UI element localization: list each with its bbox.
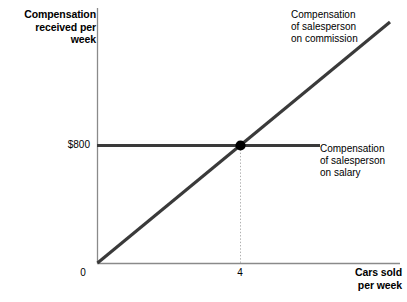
salary-series-annotation: Compensation of salesperson on salary (320, 143, 407, 179)
x-axis-title: Cars sold per week (292, 266, 402, 291)
y-axis-title: Compensation received per week (4, 8, 96, 46)
intersection-point-marker (235, 140, 245, 150)
y-axis-tick-label-800: $800 (52, 139, 90, 151)
x-axis-tick-label-4: 4 (233, 267, 247, 279)
commission-series-annotation: Compensation of salesperson on commissio… (291, 9, 407, 45)
x-axis-tick-label-0: 0 (76, 267, 90, 279)
compensation-chart: Compensation received per week Cars sold… (0, 0, 407, 302)
